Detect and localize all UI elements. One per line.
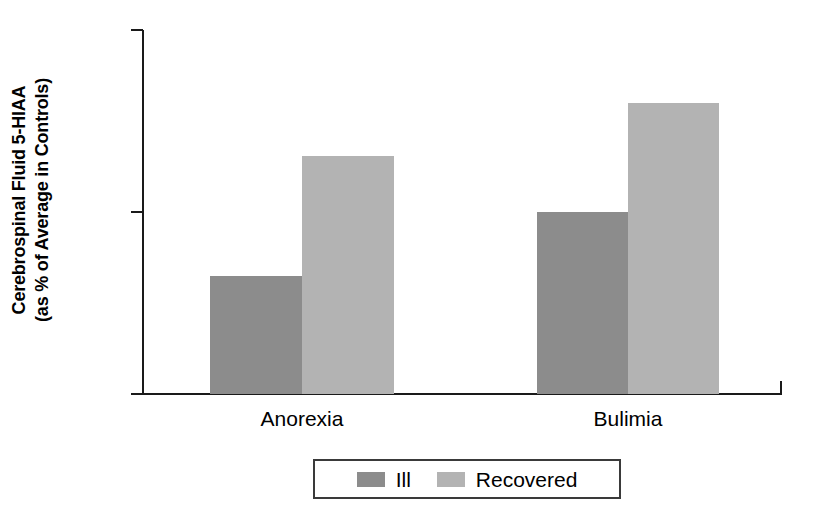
x-category-label-anorexia: Anorexia: [210, 408, 394, 429]
legend-item-ill: Ill: [357, 469, 411, 490]
bar-anorexia-recovered: [302, 156, 394, 394]
bar-bulimia-recovered: [628, 103, 719, 394]
y-axis-title-line2: (as % of Average in Controls): [30, 78, 53, 322]
legend-item-recovered: Recovered: [437, 469, 578, 490]
y-axis-title: Cerebrospinal Fluid 5-HIAA (as % of Aver…: [0, 0, 60, 400]
y-axis-title-line1: Cerebrospinal Fluid 5-HIAA: [8, 78, 31, 322]
bar-anorexia-ill: [210, 276, 302, 394]
bar-bulimia-ill: [537, 212, 628, 394]
legend-label-ill: Ill: [396, 469, 411, 490]
legend-swatch-ill-icon: [357, 472, 385, 487]
x-category-label-bulimia: Bulimia: [537, 408, 719, 429]
legend-label-recovered: Recovered: [476, 469, 578, 490]
plot-area: [142, 30, 782, 394]
legend-swatch-recovered-icon: [437, 472, 465, 487]
chart-legend: Ill Recovered: [313, 459, 621, 499]
bar-chart-figure: Cerebrospinal Fluid 5-HIAA (as % of Aver…: [0, 0, 813, 529]
